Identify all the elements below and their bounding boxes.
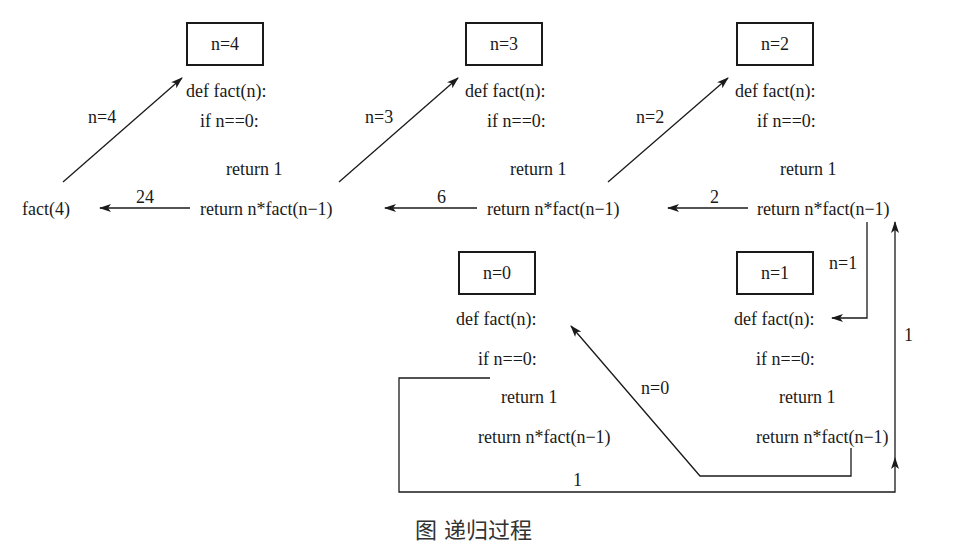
- frame-box-n2: n=2: [736, 22, 814, 66]
- call-label-n4: n=4: [88, 108, 116, 126]
- figure-caption: 图 递归过程: [415, 512, 532, 544]
- call-arrow-n3: [339, 78, 458, 182]
- frame-n4-if: if n==0:: [200, 112, 259, 130]
- frame-n3-return1: return 1: [510, 160, 566, 178]
- call-arrow-n2: [608, 78, 728, 182]
- frame-n2-return1: return 1: [780, 160, 836, 178]
- return-label-6: 6: [437, 188, 446, 206]
- call-label-n3: n=3: [365, 108, 393, 126]
- frame-n0-return1: return 1: [501, 388, 557, 406]
- frame-n1-returnn: return n*fact(n−1): [756, 428, 889, 446]
- frame-n4-def: def fact(n):: [186, 82, 266, 100]
- frame-n3-if: if n==0:: [487, 112, 546, 130]
- frame-n1-def: def fact(n):: [734, 310, 814, 328]
- return-label-2: 2: [710, 188, 719, 206]
- frame-n3-returnn: return n*fact(n−1): [487, 200, 620, 218]
- return-label-24: 24: [136, 188, 154, 206]
- return-label-1-upper: 1: [904, 326, 913, 344]
- frame-n4-return1: return 1: [226, 160, 282, 178]
- frame-box-n3: n=3: [465, 22, 543, 66]
- frame-box-n0: n=0: [458, 251, 536, 295]
- call-label-n1: n=1: [829, 254, 857, 272]
- frame-box-n4: n=4: [186, 22, 264, 66]
- call-label-n0: n=0: [641, 379, 669, 397]
- frame-n2-if: if n==0:: [757, 112, 816, 130]
- frame-n0-returnn: return n*fact(n−1): [478, 428, 611, 446]
- frame-n1-if: if n==0:: [756, 350, 815, 368]
- caller-expression: fact(4): [22, 200, 70, 218]
- frame-n3-def: def fact(n):: [465, 82, 545, 100]
- frame-n2-returnn: return n*fact(n−1): [757, 200, 890, 218]
- frame-n1-return1: return 1: [779, 388, 835, 406]
- frame-n0-def: def fact(n):: [456, 310, 536, 328]
- call-arrow-n4: [63, 78, 182, 182]
- frame-n0-if: if n==0:: [478, 350, 537, 368]
- frame-box-n1: n=1: [736, 251, 814, 295]
- frame-n2-def: def fact(n):: [735, 82, 815, 100]
- call-label-n2: n=2: [636, 108, 664, 126]
- return-label-1-lower: 1: [573, 471, 582, 489]
- frame-n4-returnn: return n*fact(n−1): [200, 200, 333, 218]
